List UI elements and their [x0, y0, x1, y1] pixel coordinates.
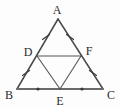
geometry-figure: A B C D E F [0, 0, 120, 107]
vertex-label-c: C [107, 88, 115, 102]
geometry-canvas: A B C D E F [0, 0, 120, 107]
segment-de [37, 56, 60, 89]
vertex-label-e: E [56, 94, 63, 107]
dot-mark-ec [80, 87, 83, 90]
segment-ac [58, 19, 103, 89]
dot-mark-be [36, 87, 39, 90]
segment-ef [60, 56, 81, 89]
vertex-label-d: D [24, 45, 33, 59]
vertex-label-b: B [5, 88, 13, 102]
vertex-label-f: F [86, 44, 93, 58]
vertex-label-a: A [53, 3, 62, 17]
